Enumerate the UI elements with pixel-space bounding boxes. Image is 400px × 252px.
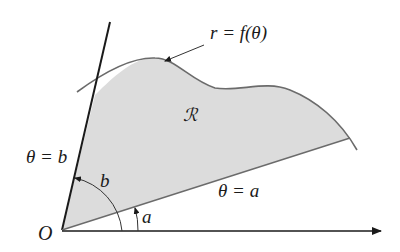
theta-a-label: θ = a	[218, 180, 259, 202]
origin-label: O	[38, 222, 52, 245]
curve-pointer-arrow	[165, 45, 204, 61]
theta-b-label: θ = b	[26, 146, 67, 168]
polar-region-diagram	[0, 0, 400, 252]
angle-b-label: b	[100, 170, 110, 192]
curve-label: r = f(θ)	[210, 22, 267, 44]
angle-arc-a	[135, 208, 138, 231]
region-label: ℛ	[183, 104, 197, 126]
angle-a-label: a	[142, 206, 152, 228]
